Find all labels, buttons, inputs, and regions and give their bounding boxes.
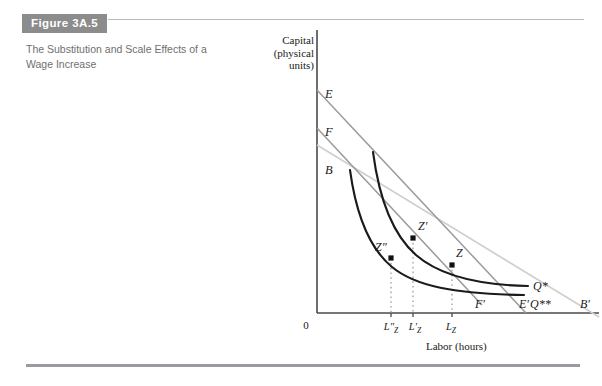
isocost-line-E bbox=[317, 90, 526, 313]
label-F-prime: F′ bbox=[474, 297, 485, 311]
label-Z-double-prime: Z″ bbox=[375, 240, 388, 254]
chart-canvas: 0 E F B Z′ Z″ Z Q* Q** bbox=[258, 22, 602, 362]
tick-label-Lz-prime: L′Z bbox=[408, 321, 422, 335]
isoquant-curve-Q-double-star bbox=[350, 170, 524, 295]
isocost-line-F bbox=[317, 128, 482, 305]
label-E-prime: E′ bbox=[518, 297, 529, 311]
header-rule bbox=[108, 19, 584, 20]
point-marker-Z-double-prime bbox=[388, 255, 393, 260]
point-marker-Z-prime bbox=[410, 235, 415, 240]
figure-caption: The Substitution and Scale Effects of a … bbox=[26, 42, 226, 72]
bottom-rule bbox=[26, 364, 580, 367]
label-B-prime: B′ bbox=[580, 297, 590, 311]
label-Q-star: Q* bbox=[533, 279, 548, 293]
label-Z: Z bbox=[456, 246, 463, 260]
label-Q-double-star: Q** bbox=[530, 297, 551, 311]
figure-number-badge: Figure 3A.5 bbox=[22, 14, 107, 33]
point-marker-Z bbox=[449, 262, 454, 267]
label-E: E bbox=[324, 87, 333, 101]
y-axis-label-line3: units) bbox=[289, 59, 314, 71]
figure-chart: Capital (physical units) Labor (hours) 0 bbox=[258, 22, 602, 362]
tick-label-Lz: LZ bbox=[445, 321, 457, 335]
y-axis-label: Capital (physical units) bbox=[258, 34, 314, 72]
x-axis-label: Labor (hours) bbox=[426, 340, 546, 353]
y-axis-label-line2: (physical bbox=[274, 47, 314, 59]
tick-label-Lz-double-prime: L″Z bbox=[383, 321, 399, 335]
label-F: F bbox=[324, 125, 333, 139]
label-Z-prime: Z′ bbox=[418, 219, 428, 233]
y-axis-label-line1: Capital bbox=[282, 34, 314, 46]
origin-label: 0 bbox=[303, 319, 309, 331]
label-B: B bbox=[325, 163, 333, 177]
